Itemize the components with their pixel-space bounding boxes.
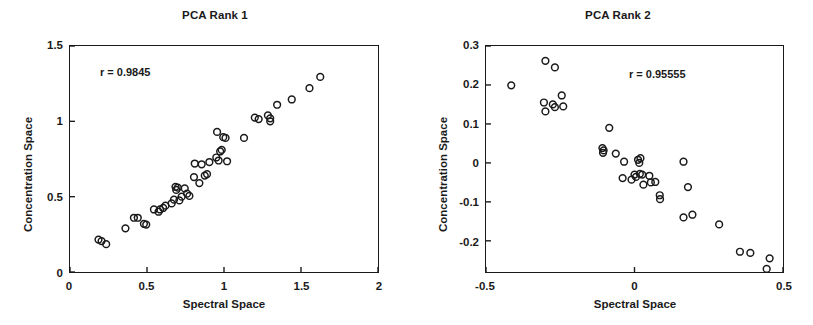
data-point xyxy=(122,225,129,232)
x-axis-title: Spectral Space xyxy=(594,298,676,310)
x-tick-label: 0 xyxy=(66,280,72,292)
data-point xyxy=(218,147,225,154)
data-point xyxy=(619,175,626,182)
y-axis-title: Concentration Space xyxy=(437,117,449,232)
data-point xyxy=(646,172,653,179)
y-tick-label: -0.2 xyxy=(429,236,479,248)
data-point xyxy=(542,108,549,115)
plot-area xyxy=(69,45,379,273)
data-point xyxy=(508,82,515,89)
data-point xyxy=(317,74,324,81)
y-tick-label: 0 xyxy=(13,267,63,279)
data-point xyxy=(541,99,548,106)
data-point xyxy=(542,57,549,64)
data-point xyxy=(224,158,231,165)
chart-title: PCA Rank 1 xyxy=(0,9,406,21)
data-point xyxy=(196,180,203,187)
data-point xyxy=(560,103,567,110)
x-tick-label: 1.5 xyxy=(294,280,310,292)
data-point xyxy=(198,161,205,168)
data-point xyxy=(621,158,628,165)
data-point xyxy=(206,159,213,166)
x-axis-title: Spectral Space xyxy=(183,298,265,310)
data-point xyxy=(288,96,295,103)
x-tick-label: -0.5 xyxy=(475,280,495,292)
x-tick-label: 2 xyxy=(376,280,382,292)
chart-panel-pca-rank-1: PCA Rank 1 r = 0.9845 00.511.500.511.52 … xyxy=(0,0,406,325)
data-point xyxy=(558,92,565,99)
scatter-points-layer xyxy=(70,46,378,272)
correlation-annotation: r = 0.95555 xyxy=(629,68,686,80)
data-point xyxy=(274,101,281,108)
data-point xyxy=(766,255,773,262)
data-point xyxy=(685,184,692,191)
data-point xyxy=(241,135,248,142)
data-point xyxy=(606,124,613,131)
chart-title: PCA Rank 2 xyxy=(407,9,813,21)
data-point xyxy=(680,158,687,165)
data-point xyxy=(652,179,659,186)
y-tick-label: 0.2 xyxy=(429,78,479,90)
data-point xyxy=(640,181,647,188)
data-point xyxy=(191,160,198,167)
data-point xyxy=(612,150,619,157)
y-axis-title: Concentration Space xyxy=(22,117,34,232)
data-point xyxy=(689,211,696,218)
data-point xyxy=(716,221,723,228)
y-tick-label: 0.3 xyxy=(429,39,479,51)
pca-scatter-figure: PCA Rank 1 r = 0.9845 00.511.500.511.52 … xyxy=(0,0,813,325)
x-tick-label: 1 xyxy=(221,280,227,292)
correlation-annotation: r = 0.9845 xyxy=(100,66,150,78)
data-point xyxy=(680,214,687,221)
data-point xyxy=(214,129,221,136)
chart-panel-pca-rank-2: PCA Rank 2 r = 0.95555 -0.2-0.100.10.20.… xyxy=(407,0,813,325)
x-tick-label: 0.5 xyxy=(776,280,792,292)
y-tick-label: 1 xyxy=(13,115,63,127)
data-point xyxy=(747,250,754,257)
x-tick-label: 0.5 xyxy=(139,280,155,292)
y-tick-label: 1.5 xyxy=(13,39,63,51)
data-point xyxy=(763,266,770,273)
x-tick-label: 0 xyxy=(631,280,637,292)
data-point xyxy=(552,64,559,71)
y-tick-label: 0.5 xyxy=(13,191,63,203)
data-point xyxy=(191,174,198,181)
data-point xyxy=(737,248,744,255)
data-point xyxy=(306,85,313,92)
